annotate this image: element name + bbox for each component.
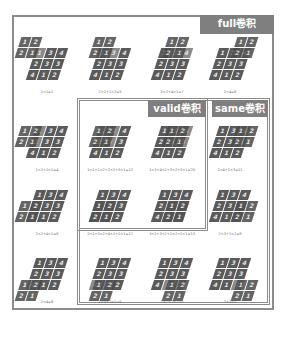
step-formula: 2×1+1×2=5 [75, 90, 145, 94]
valid-convolution-label: valid卷积 [148, 100, 206, 117]
step-formula: 1×1+1×2+2×2+3×1=12 [75, 168, 145, 172]
step-formula: 1×2+1×1=4 [12, 168, 82, 172]
step-formula: 1×4+2×1=6 [75, 300, 145, 304]
step-formula: 2×3+1×2=8 [195, 232, 265, 236]
step-formula: 2×4+1×3=11 [195, 168, 265, 172]
step-formula: 1×1=1 [12, 90, 82, 94]
full-convolution-label: full卷积 [200, 15, 274, 34]
step-formula: 2×2+4×1=8 [12, 232, 82, 236]
same-convolution-label: same卷积 [212, 100, 268, 117]
step-formula: 2×1+3×2+4×2+1×1=17 [75, 232, 145, 236]
step-formula: 2×1=2 [195, 300, 265, 304]
step-formula: 2×4=8 [12, 300, 82, 304]
step-formula: 2×4=8 [195, 90, 265, 94]
